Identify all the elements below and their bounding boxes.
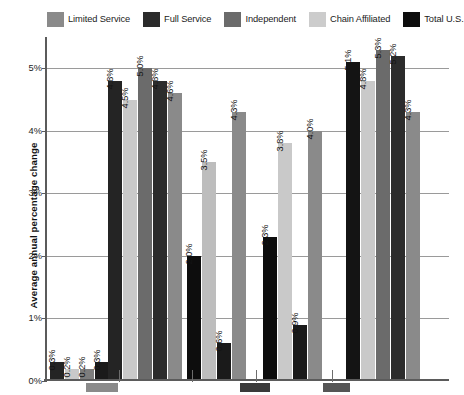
axis-group-marker xyxy=(86,383,118,392)
bar-value-label: 0.3% xyxy=(47,350,57,371)
bar-value-label: 4.8% xyxy=(358,68,368,89)
bar[interactable]: 4.8% xyxy=(108,81,122,381)
bar[interactable]: 5.3% xyxy=(376,50,390,381)
axis-group-marker xyxy=(323,383,350,392)
y-axis-tick xyxy=(42,381,47,382)
plot-area: 0%1%2%3%4%5% 0.3%0.2%0.2%0.3%4.8%4.5%5.0… xyxy=(45,37,449,381)
bar-value-label: 4.8% xyxy=(150,68,160,89)
legend-label: Independent xyxy=(245,15,296,24)
group-separator-tick xyxy=(119,370,120,382)
bar[interactable]: 5.1% xyxy=(346,62,360,381)
bar-value-label: 5.1% xyxy=(343,50,353,71)
bar-value-label: 0.9% xyxy=(290,312,300,333)
legend-swatch-icon xyxy=(224,12,241,27)
bar-value-label: 2.3% xyxy=(260,225,270,246)
bar-value-label: 0.3% xyxy=(92,350,102,371)
bar[interactable]: 4.8% xyxy=(361,81,375,381)
bar[interactable]: 4.0% xyxy=(308,131,322,381)
legend-swatch-icon xyxy=(143,12,160,27)
bar-group: 2.3%3.8%0.9%4.0% xyxy=(263,37,323,381)
legend-item-limited-service[interactable]: Limited Service xyxy=(47,12,130,27)
group-separator-tick xyxy=(192,370,193,382)
axis-group-marker xyxy=(240,383,270,392)
bar-value-label: 5.0% xyxy=(135,56,145,77)
bar-group: 2.0%3.5%0.6%4.3% xyxy=(187,37,247,381)
bar-value-label: 4.3% xyxy=(229,100,239,121)
bar[interactable]: 0.9% xyxy=(293,325,307,381)
bar[interactable]: 0.6% xyxy=(217,343,231,381)
legend-swatch-icon xyxy=(309,12,326,27)
bar-value-label: 5.3% xyxy=(373,37,383,58)
y-axis-tick xyxy=(42,256,47,257)
x-axis-line xyxy=(44,379,449,381)
y-axis-title: Average annual percentage change xyxy=(28,111,39,341)
bar[interactable]: 4.3% xyxy=(406,112,420,381)
legend-label: Full Service xyxy=(164,15,211,24)
legend-item-total-us[interactable]: Total U.S. xyxy=(403,12,463,27)
y-axis-tick-label: 1% xyxy=(29,313,42,323)
bar[interactable]: 5.0% xyxy=(138,68,152,381)
bar[interactable]: 4.5% xyxy=(123,100,137,381)
bar-value-label: 5.2% xyxy=(388,43,398,64)
bar-value-label: 2.0% xyxy=(184,243,194,264)
bar-value-label: 0.2% xyxy=(62,356,72,377)
bar-value-label: 0.2% xyxy=(77,356,87,377)
y-axis-tick xyxy=(42,68,47,69)
legend-label: Limited Service xyxy=(68,15,130,24)
y-axis-tick-label: 0% xyxy=(29,376,42,386)
legend-label: Chain Affiliated xyxy=(330,15,390,24)
bar-value-label: 3.8% xyxy=(275,131,285,152)
bar[interactable]: 4.8% xyxy=(153,81,167,381)
legend-item-independent[interactable]: Independent xyxy=(224,12,296,27)
plot-inner: 0%1%2%3%4%5% 0.3%0.2%0.2%0.3%4.8%4.5%5.0… xyxy=(47,37,449,381)
y-axis-tick-label: 5% xyxy=(29,63,42,73)
bar-group: 0.3%0.2%0.2%0.3% xyxy=(50,37,110,381)
y-axis-tick-label: 4% xyxy=(29,126,42,136)
bar[interactable]: 2.0% xyxy=(187,256,201,381)
bar-value-label: 3.5% xyxy=(199,150,209,171)
legend-item-full-service[interactable]: Full Service xyxy=(143,12,211,27)
bar-value-label: 4.0% xyxy=(305,118,315,139)
y-axis-tick xyxy=(42,131,47,132)
bar[interactable]: 4.3% xyxy=(232,112,246,381)
bar-value-label: 0.6% xyxy=(214,331,224,352)
legend-label: Total U.S. xyxy=(424,15,463,24)
group-separator-tick xyxy=(256,370,257,382)
y-axis-tick-label: 3% xyxy=(29,188,42,198)
bar-value-label: 4.3% xyxy=(403,100,413,121)
bar[interactable]: 2.3% xyxy=(263,237,277,381)
bar-value-label: 4.5% xyxy=(120,87,130,108)
legend-swatch-icon xyxy=(47,12,64,27)
y-axis-tick xyxy=(42,318,47,319)
chart-legend: Limited Service Full Service Independent… xyxy=(47,10,447,29)
y-axis-tick-label: 2% xyxy=(29,251,42,261)
bar-value-label: 4.6% xyxy=(165,81,175,102)
bar[interactable]: 4.6% xyxy=(168,93,182,381)
bar-value-label: 4.8% xyxy=(105,68,115,89)
bar[interactable]: 3.8% xyxy=(278,143,292,381)
legend-item-chain-affiliated[interactable]: Chain Affiliated xyxy=(309,12,390,27)
bar-group: 5.1%4.8%5.3%5.2%4.3% xyxy=(346,37,421,381)
y-axis-tick xyxy=(42,193,47,194)
legend-swatch-icon xyxy=(403,12,420,27)
bar-group: 4.8%4.5%5.0%4.8%4.6% xyxy=(108,37,183,381)
group-separator-tick xyxy=(332,370,333,382)
